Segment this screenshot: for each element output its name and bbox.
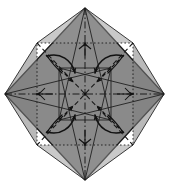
center-point bbox=[83, 92, 86, 95]
origami-diagram bbox=[0, 0, 169, 188]
